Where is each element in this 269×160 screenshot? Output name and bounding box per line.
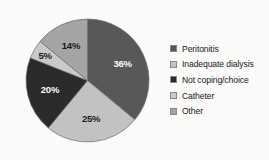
legend-item-label: Other <box>182 106 203 116</box>
legend-item[interactable]: Not coping/choice <box>170 72 269 88</box>
legend-item-label: Inadequate dialysis <box>182 59 254 69</box>
legend-item-label: Peritonitis <box>182 44 219 54</box>
legend-swatch-icon <box>170 45 177 52</box>
legend-swatch-icon <box>170 92 177 99</box>
pie-chart-figure: 36%25%20%5%14% PeritonitisInadequate dia… <box>0 0 269 160</box>
legend-item-label: Not coping/choice <box>182 75 249 85</box>
pie-slice-label: 14% <box>62 40 81 51</box>
chart-legend: PeritonitisInadequate dialysisNot coping… <box>170 41 269 119</box>
legend-swatch-icon <box>170 76 177 83</box>
legend-swatch-icon <box>170 108 177 115</box>
legend-item[interactable]: Inadequate dialysis <box>170 57 269 73</box>
pie-slice-label: 36% <box>113 58 132 69</box>
pie-slice-label: 5% <box>39 50 53 61</box>
legend-item-label: Catheter <box>182 91 214 101</box>
pie-slice-label: 25% <box>82 113 101 124</box>
pie-slice-label: 20% <box>41 84 60 95</box>
legend-item[interactable]: Peritonitis <box>170 41 269 57</box>
legend-item[interactable]: Other <box>170 103 269 119</box>
legend-swatch-icon <box>170 61 177 68</box>
legend-item[interactable]: Catheter <box>170 88 269 104</box>
